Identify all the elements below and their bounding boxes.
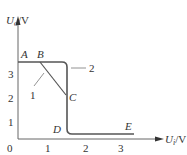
curve-1-label: 1 bbox=[30, 89, 36, 101]
y-tick-2: 2 bbox=[8, 92, 14, 104]
x-tick-2: 2 bbox=[83, 142, 89, 154]
point-a-label: A bbox=[20, 48, 28, 60]
point-d-label: D bbox=[52, 123, 61, 135]
point-e-label: E bbox=[124, 120, 132, 132]
origin-label: 0 bbox=[7, 142, 13, 154]
x-tick-3: 3 bbox=[118, 142, 124, 154]
x-axis-label: Ui/V bbox=[165, 133, 186, 147]
y-tick-3: 3 bbox=[8, 68, 14, 80]
x-tick-1: 1 bbox=[45, 142, 51, 154]
point-b-label: B bbox=[37, 48, 44, 60]
y-axis-label: Uo/V bbox=[6, 14, 29, 28]
curve-1-segment-bc bbox=[40, 62, 66, 95]
point-c-label: C bbox=[69, 91, 77, 103]
curve-2-label: 2 bbox=[89, 62, 95, 74]
chart-canvas: Uo/V Ui/V 0 1 2 3 1 2 3 A B C D E 1 2 bbox=[0, 0, 187, 155]
y-tick-1: 1 bbox=[8, 116, 14, 128]
leader-line-1 bbox=[34, 73, 44, 86]
x-axis-arrow-icon bbox=[155, 137, 164, 142]
